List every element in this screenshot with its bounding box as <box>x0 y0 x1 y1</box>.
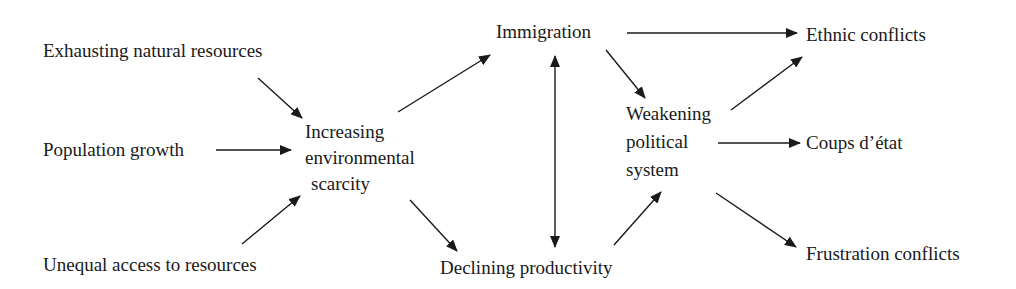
node-line: Increasing <box>305 119 415 145</box>
node-frustration-conflicts: Frustration conflicts <box>806 241 960 267</box>
node-ethnic-conflicts: Ethnic conflicts <box>806 22 926 48</box>
arrow-scarcity-to-immigration <box>398 55 490 112</box>
node-line: system <box>626 156 711 184</box>
arrow-unequal-to-scarcity <box>242 196 300 244</box>
arrow-weakening-to-ethnic <box>731 57 802 110</box>
arrow-exhausting-to-scarcity <box>258 78 302 118</box>
node-line: political <box>626 128 711 156</box>
node-immigration: Immigration <box>496 19 591 45</box>
node-increasing-environmental-scarcity: Increasing environmental scarcity <box>305 119 415 197</box>
node-line: Weakening <box>626 100 711 128</box>
arrow-declining-to-weakening <box>614 192 661 245</box>
arrow-immigration-to-weakening <box>606 50 645 98</box>
node-population-growth: Population growth <box>43 137 184 163</box>
node-line: scarcity <box>305 171 415 197</box>
node-exhausting-natural-resources: Exhausting natural resources <box>43 38 262 64</box>
arrow-scarcity-to-declining <box>410 200 457 251</box>
node-unequal-access: Unequal access to resources <box>43 252 257 278</box>
node-line: environmental <box>305 145 415 171</box>
node-coups-detat: Coups d’état <box>806 130 903 156</box>
causal-diagram: Exhausting natural resources Population … <box>0 0 1016 289</box>
node-weakening-political-system: Weakening political system <box>626 100 711 184</box>
arrow-weakening-to-frustration <box>716 193 796 247</box>
node-declining-productivity: Declining productivity <box>440 255 613 281</box>
